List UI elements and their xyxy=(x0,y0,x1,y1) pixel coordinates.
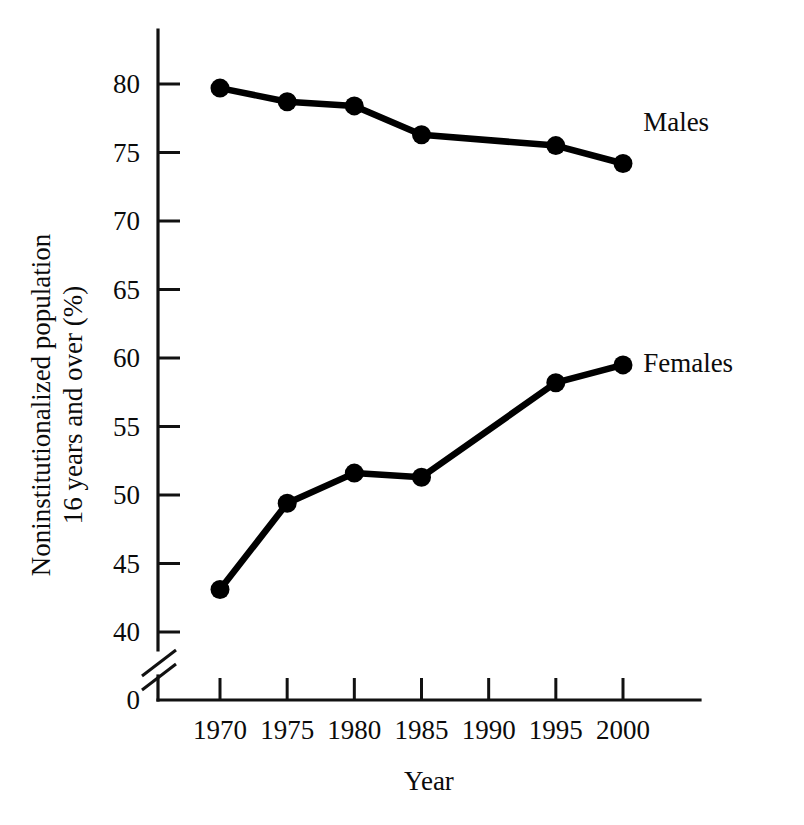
x-axis-title: Year xyxy=(404,766,454,796)
x-tick-label-1995: 1995 xyxy=(529,715,583,745)
data-point-females-1975 xyxy=(278,494,297,513)
data-point-males-1970 xyxy=(211,79,230,98)
data-point-females-1980 xyxy=(345,464,364,483)
series-males: Males xyxy=(211,79,710,173)
x-axis-ticks: 1970197519801985199019952000 xyxy=(193,678,650,745)
y-axis-title-line2: 16 years and over (%) xyxy=(58,286,88,524)
y-tick-label-75: 75 xyxy=(113,138,140,168)
y-tick-label-40: 40 xyxy=(113,617,140,647)
data-point-females-2000 xyxy=(614,355,633,374)
series-label-males: Males xyxy=(643,107,709,137)
y-axis-ticks: 404550556065707580 xyxy=(113,69,180,647)
y-tick-label-80: 80 xyxy=(113,69,140,99)
y-axis-title: Noninstitutionalized population 16 years… xyxy=(26,233,88,576)
x-tick-label-2000: 2000 xyxy=(596,715,650,745)
y-axis-title-line1: Noninstitutionalized population xyxy=(26,233,56,576)
chart-container: Noninstitutionalized population 16 years… xyxy=(0,0,804,825)
axis-break-slash-upper xyxy=(142,650,176,676)
x-tick-label-1990: 1990 xyxy=(462,715,516,745)
data-point-males-1995 xyxy=(546,136,565,155)
series-label-females: Females xyxy=(643,348,733,378)
data-point-females-1995 xyxy=(546,373,565,392)
x-tick-label-1975: 1975 xyxy=(260,715,314,745)
data-point-males-2000 xyxy=(614,154,633,173)
x-tick-label-1970: 1970 xyxy=(193,715,247,745)
line-chart: Noninstitutionalized population 16 years… xyxy=(0,0,804,825)
data-point-females-1985 xyxy=(412,468,431,487)
y-tick-label-60: 60 xyxy=(113,343,140,373)
y-tick-label-70: 70 xyxy=(113,206,140,236)
y-tick-label-65: 65 xyxy=(113,275,140,305)
y-tick-label-45: 45 xyxy=(113,549,140,579)
y-tick-label-50: 50 xyxy=(113,480,140,510)
data-point-males-1985 xyxy=(412,125,431,144)
data-point-males-1980 xyxy=(345,96,364,115)
y-axis-origin-label: 0 xyxy=(127,685,141,715)
y-tick-label-55: 55 xyxy=(113,412,140,442)
series-females: Females xyxy=(211,348,734,599)
x-tick-label-1980: 1980 xyxy=(327,715,381,745)
x-tick-label-1985: 1985 xyxy=(395,715,449,745)
data-point-females-1970 xyxy=(211,580,230,599)
data-point-males-1975 xyxy=(278,92,297,111)
series-layer: MalesFemales xyxy=(211,79,734,599)
